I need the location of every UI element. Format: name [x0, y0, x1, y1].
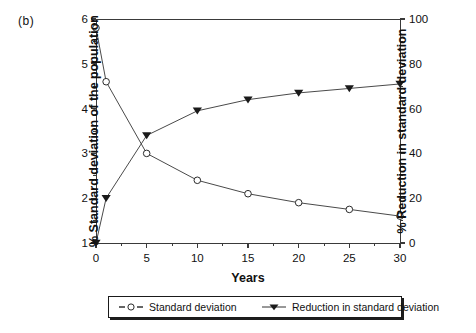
- y-right-tick-label: 0: [409, 237, 415, 249]
- legend: Standard deviation Reduction in standard…: [108, 296, 402, 318]
- data-point-circle: [103, 78, 110, 85]
- series-reduction: [91, 81, 404, 247]
- data-point-triangle: [102, 195, 111, 202]
- y-axis-right-title-text: % Reduction in standard deviation: [395, 29, 409, 234]
- legend-item-standard-deviation: Standard deviation: [118, 301, 237, 313]
- x-minor-tick: [121, 243, 122, 246]
- x-tick-label: 10: [191, 252, 204, 264]
- series-standard-deviation: [93, 25, 404, 220]
- y-right-tick-label: 40: [409, 147, 422, 159]
- data-point-circle: [346, 206, 353, 213]
- x-tick: [349, 243, 350, 248]
- y-right-tick-label: 20: [409, 192, 422, 204]
- x-tick-label: 30: [394, 252, 407, 264]
- panel-label: (b): [18, 14, 34, 28]
- y-right-tick-label: 100: [409, 13, 428, 25]
- x-minor-tick: [374, 243, 375, 246]
- legend-item-reduction: Reduction in standard deviation: [261, 301, 439, 313]
- x-tick: [298, 243, 299, 248]
- x-tick-label: 0: [93, 252, 99, 264]
- x-tick-label: 25: [343, 252, 356, 264]
- x-minor-tick: [324, 243, 325, 246]
- x-minor-tick: [222, 243, 223, 246]
- x-tick: [146, 243, 147, 248]
- data-point-circle: [143, 150, 150, 157]
- y-right-tick-label: 80: [409, 58, 422, 70]
- data-point-triangle: [142, 132, 151, 139]
- x-tick-label: 15: [242, 252, 255, 264]
- data-point-circle: [295, 199, 302, 206]
- plot-area: 123456 020406080100 051015202530 % Stand…: [96, 19, 400, 243]
- y-right-tick-label: 60: [409, 103, 422, 115]
- x-minor-tick: [172, 243, 173, 246]
- x-tick: [197, 243, 198, 248]
- legend-label: Standard deviation: [149, 301, 237, 313]
- open-circle-icon: [118, 302, 144, 312]
- x-axis-title: Years: [231, 271, 264, 285]
- legend-label: Reduction in standard deviation: [292, 301, 439, 313]
- data-point-triangle: [193, 108, 202, 115]
- y-axis-left-title-text: % Standard deviation of the population: [87, 15, 101, 247]
- data-point-circle: [194, 177, 201, 184]
- x-tick: [247, 243, 248, 248]
- x-tick: [399, 243, 400, 248]
- chart-figure: (b) 123456 020406080100 051015202530 % S…: [0, 0, 476, 333]
- data-point-circle: [245, 190, 252, 197]
- x-tick-label: 5: [143, 252, 149, 264]
- filled-triangle-icon: [261, 302, 287, 312]
- y-right-tick: [400, 18, 405, 19]
- x-minor-tick: [273, 243, 274, 246]
- y-right-tick: [400, 242, 405, 243]
- x-tick-label: 20: [292, 252, 305, 264]
- series-line: [96, 84, 400, 243]
- series-canvas: [96, 19, 400, 243]
- series-line: [96, 28, 400, 216]
